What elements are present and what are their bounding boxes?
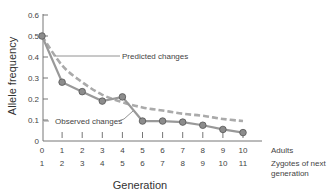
observed-point [99, 98, 106, 105]
adults-tick-label: 6 [160, 146, 165, 155]
zygotes-tick-label: 4 [100, 159, 105, 168]
zygotes-tick-label: 1 [40, 159, 45, 168]
y-axis-title: Allele frequency [6, 36, 18, 115]
observed-point [200, 122, 207, 129]
zygotes-tick-label: 10 [218, 159, 227, 168]
adults-tick-label: 8 [201, 146, 206, 155]
observed-point [59, 79, 66, 86]
y-tick-label: 0.3 [28, 74, 40, 83]
observed-point [159, 118, 166, 125]
adults-tick-label: 4 [120, 146, 125, 155]
y-tick-label: 0.4 [28, 53, 40, 62]
y-tick-label: 0.5 [28, 32, 40, 41]
observed-point [179, 119, 186, 126]
zygotes-tick-label: 3 [80, 159, 85, 168]
adults-tick-label: 2 [80, 146, 85, 155]
zygotes-tick-label: 6 [140, 159, 145, 168]
x-axis-title: Generation [113, 179, 167, 191]
adults-tick-label: 0 [40, 146, 45, 155]
observed-point [39, 33, 46, 40]
adults-tick-label: 7 [180, 146, 185, 155]
x-axis: 0112233445566778899101011 [40, 132, 262, 168]
zygotes-tick-label: 8 [180, 159, 185, 168]
zygotes-tick-label: 11 [239, 159, 248, 168]
zygotes-tick-label: 2 [60, 159, 65, 168]
zygotes-row-label-line2: generation [271, 169, 309, 178]
adults-tick-label: 9 [221, 146, 226, 155]
zygotes-tick-label: 7 [160, 159, 165, 168]
y-tick-label: 0.6 [28, 11, 40, 20]
zygotes-row-label-line1: Zygotes of next [271, 159, 326, 168]
y-axis: 00.10.20.30.40.50.6 [28, 11, 48, 146]
zygotes-tick-label: 9 [201, 159, 206, 168]
adults-row-label: Adults [271, 146, 293, 155]
adults-tick-label: 10 [239, 146, 248, 155]
observed-label: Observed changes [55, 117, 122, 126]
observed-point [240, 129, 247, 136]
predicted-label: Predicted changes [122, 52, 188, 61]
observed-point [79, 88, 86, 95]
allele-frequency-chart: 00.10.20.30.40.50.6 01122334455667788991… [0, 0, 329, 196]
observed-point [139, 118, 146, 125]
y-tick-label: 0 [35, 137, 40, 146]
y-tick-label: 0.2 [28, 95, 40, 104]
adults-tick-label: 1 [60, 146, 65, 155]
predicted-series [42, 36, 243, 121]
zygotes-tick-label: 5 [120, 159, 125, 168]
predicted-curve [42, 36, 243, 121]
observed-point [119, 94, 126, 101]
adults-tick-label: 5 [140, 146, 145, 155]
y-tick-label: 0.1 [28, 116, 40, 125]
observed-point [220, 126, 227, 133]
adults-tick-label: 3 [100, 146, 105, 155]
